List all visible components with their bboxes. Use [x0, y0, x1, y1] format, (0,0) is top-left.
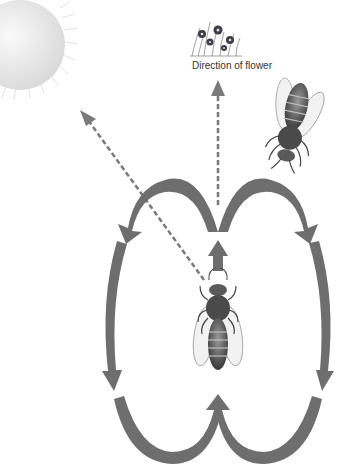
- right-return-arrow: [309, 241, 334, 391]
- bee-icon: [190, 268, 246, 370]
- waggle-dance-diagram: Direction of flower: [0, 0, 340, 469]
- flower-direction-arrow: [211, 80, 225, 205]
- flower-direction-label: Direction of flower: [172, 60, 292, 71]
- waggle-direction-arrow: [208, 240, 228, 271]
- bee-icon: [257, 74, 332, 177]
- sun-icon: [0, 0, 78, 100]
- flower-icon: [190, 22, 242, 56]
- left-return-arrow: [102, 241, 127, 391]
- bottom-dance-arrows: [114, 394, 322, 464]
